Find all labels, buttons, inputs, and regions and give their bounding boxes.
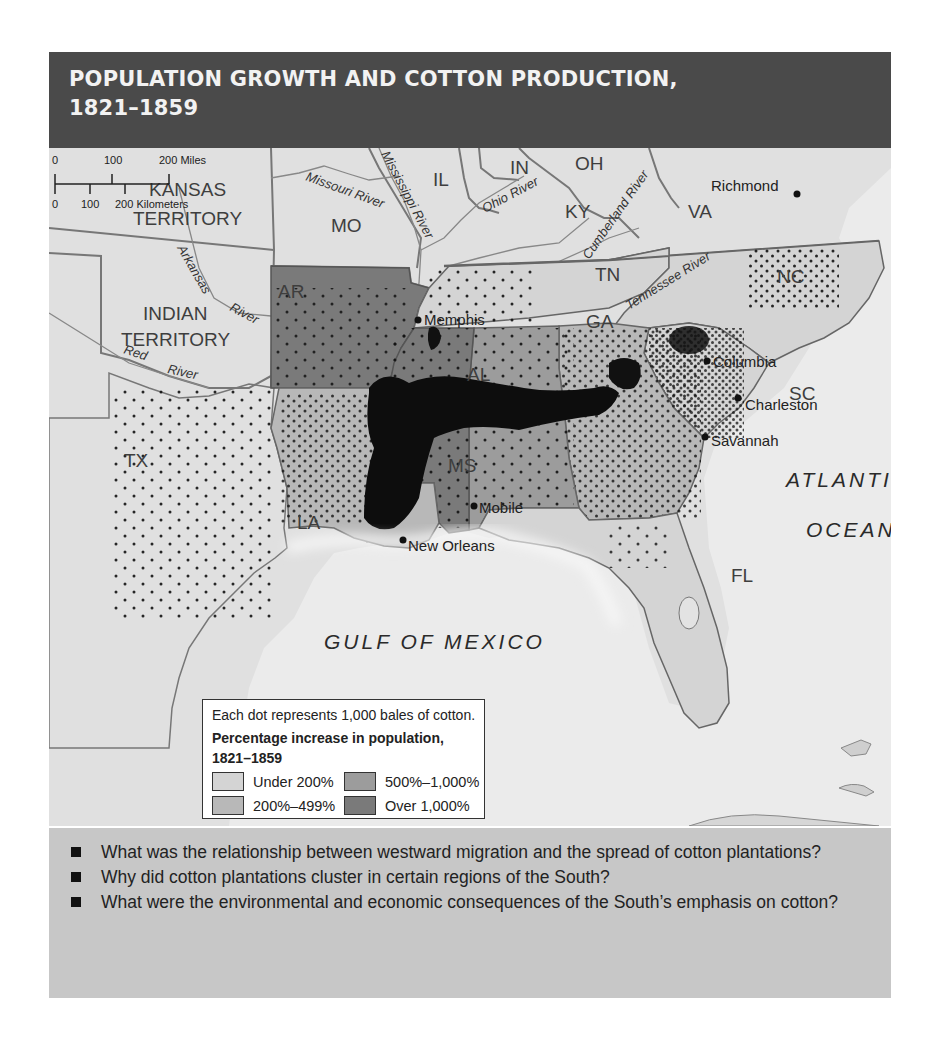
label-ocean: OCEAN	[806, 518, 891, 541]
label-al: AL	[467, 364, 490, 385]
map-title: POPULATION GROWTH AND COTTON PRODUCTION,…	[69, 65, 891, 123]
label-il: IL	[433, 169, 449, 190]
scale-miles-0: 0	[52, 154, 58, 166]
scale-km-100: 100	[81, 198, 99, 210]
label-nc: NC	[777, 266, 804, 287]
label-la: LA	[297, 512, 321, 533]
label-ga: GA	[586, 311, 614, 332]
label-gulf-of-mexico: GULF OF MEXICO	[324, 630, 545, 653]
scale-km-0: 0	[52, 198, 58, 210]
city-richmond: Richmond	[711, 177, 779, 194]
label-mo: MO	[331, 215, 362, 236]
legend-note: Each dot represents 1,000 bales of cotto…	[212, 706, 484, 724]
question-list: What was the relationship between westwa…	[69, 840, 871, 914]
label-tx: TX	[124, 450, 149, 471]
question-item: Why did cotton plantations cluster in ce…	[69, 865, 871, 889]
city-charleston: Charleston	[745, 396, 818, 413]
legend-swatch-over-1000	[344, 796, 376, 815]
city-savannah: Savannah	[711, 432, 779, 449]
legend-item-under-200: Under 200%	[212, 772, 344, 791]
city-dot-savannah	[702, 434, 709, 441]
legend-heading: Percentage increase in population, 1821–…	[212, 728, 484, 768]
label-ky: KY	[565, 201, 591, 222]
label-ms: MS	[448, 455, 477, 476]
scale-bar: 0 100 200 Miles 0 100 200 Kilometers	[49, 148, 249, 238]
legend-label-under-200: Under 200%	[253, 774, 334, 790]
city-dot-memphis	[415, 317, 422, 324]
city-dot-richmond	[794, 191, 801, 198]
question-text: What was the relationship between westwa…	[101, 842, 821, 862]
label-fl: FL	[731, 565, 753, 586]
question-item: What were the environmental and economic…	[69, 890, 871, 914]
label-tn: TN	[595, 264, 620, 285]
label-in: IN	[510, 157, 529, 178]
legend: Each dot represents 1,000 bales of cotto…	[202, 699, 485, 819]
legend-swatch-200-499	[212, 796, 244, 815]
label-oh: OH	[575, 153, 604, 174]
label-indian-1: INDIAN	[143, 303, 207, 324]
label-atlantic: ATLANTIC	[784, 468, 891, 491]
legend-items: Under 200% 500%–1,000% 200%–499% Over 1,…	[212, 772, 484, 815]
city-mobile: Mobile	[479, 499, 523, 516]
cotton-dots-ga	[561, 328, 701, 518]
legend-label-500-1000: 500%–1,000%	[385, 774, 479, 790]
square-bullet-icon	[71, 847, 81, 857]
title-band: POPULATION GROWTH AND COTTON PRODUCTION,…	[49, 52, 891, 148]
city-dot-columbia	[704, 358, 711, 365]
square-bullet-icon	[71, 897, 81, 907]
city-memphis: Memphis	[424, 311, 485, 328]
scale-miles-100: 100	[104, 154, 122, 166]
label-ar: AR	[278, 281, 304, 302]
question-item: What was the relationship between westwa…	[69, 840, 871, 864]
legend-label-200-499: 200%–499%	[253, 798, 335, 814]
map-title-line1: POPULATION GROWTH AND COTTON PRODUCTION,	[69, 67, 678, 91]
legend-item-over-1000: Over 1,000%	[344, 796, 484, 815]
questions-band: What was the relationship between westwa…	[49, 828, 891, 998]
map-area: KANSAS TERRITORY INDIAN TERRITORY MO IL …	[49, 148, 891, 826]
cotton-dots-fl	[609, 523, 669, 568]
lake-okeechobee	[679, 597, 699, 629]
city-new-orleans: New Orleans	[408, 537, 495, 554]
legend-item-500-1000: 500%–1,000%	[344, 772, 484, 791]
scale-miles-200: 200 Miles	[159, 154, 207, 166]
legend-swatch-500-1000	[344, 772, 376, 791]
legend-swatch-under-200	[212, 772, 244, 791]
map-figure: POPULATION GROWTH AND COTTON PRODUCTION,…	[49, 52, 891, 998]
square-bullet-icon	[71, 872, 81, 882]
question-text: Why did cotton plantations cluster in ce…	[101, 867, 610, 887]
city-dot-charleston	[735, 395, 742, 402]
label-va: VA	[688, 201, 712, 222]
legend-item-200-499: 200%–499%	[212, 796, 344, 815]
city-dot-mobile	[471, 503, 478, 510]
city-dot-new-orleans	[400, 537, 407, 544]
map-title-line2: 1821–1859	[69, 96, 198, 120]
scale-km-200: 200 Kilometers	[115, 198, 189, 210]
question-text: What were the environmental and economic…	[101, 892, 838, 912]
legend-label-over-1000: Over 1,000%	[385, 798, 470, 814]
city-columbia: Columbia	[713, 353, 777, 370]
cotton-dots-tx	[109, 388, 274, 618]
